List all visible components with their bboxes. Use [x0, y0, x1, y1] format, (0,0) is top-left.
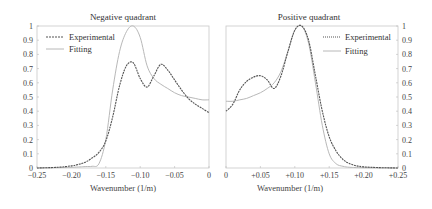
x-axis-label: Wavenumber (1/m) — [257, 183, 323, 193]
series-fitting-line — [226, 25, 398, 168]
y-tick-label: 0.5 — [402, 93, 412, 102]
panel-title: Positive quadrant — [278, 12, 341, 22]
x-tick-label: −0.15 — [97, 171, 116, 180]
legend: Experimental Fitting — [323, 32, 391, 56]
y-tick-label: 0.2 — [23, 136, 33, 145]
x-tick-label: +0.25 — [389, 171, 408, 180]
plot-frame — [37, 26, 209, 168]
y-tick-label: 0.3 — [23, 121, 33, 130]
x-tick-label: 0 — [207, 171, 211, 180]
legend-label-fitting: Fitting — [69, 44, 92, 54]
y-tick-label: 0.1 — [402, 150, 412, 159]
x-tick-label: −0.10 — [131, 171, 150, 180]
y-tick-label: 1 — [402, 22, 406, 31]
y-tick-label: 0.4 — [402, 107, 412, 116]
x-tick-label: 0 — [224, 171, 228, 180]
y-tick-label: 0.3 — [402, 121, 412, 130]
y-tick-label: 1 — [29, 22, 33, 31]
panel-positive-quadrant: Positive quadrant 00.10.20.30.40.50.60.7… — [224, 12, 412, 193]
x-tick-label: +0.10 — [286, 171, 305, 180]
x-tick-label: −0.25 — [28, 171, 47, 180]
chart-figure: Negative quadrant 00.10.20.30.40.50.60.7… — [0, 0, 432, 209]
plot-frame — [226, 26, 398, 168]
y-tick-label: 0.4 — [23, 107, 33, 116]
legend-label-experimental: Experimental — [69, 32, 115, 42]
y-tick-label: 0.5 — [23, 93, 33, 102]
y-tick-label: 0.2 — [402, 136, 412, 145]
legend: Experimental Fitting — [46, 32, 115, 54]
y-tick-label: 0.9 — [23, 36, 33, 45]
panel-negative-quadrant: Negative quadrant 00.10.20.30.40.50.60.7… — [23, 12, 211, 193]
x-tick-label: +0.20 — [354, 171, 373, 180]
x-tick-label: +0.15 — [320, 171, 339, 180]
y-tick-label: 0.8 — [402, 50, 412, 59]
y-tick-label: 0.8 — [23, 50, 33, 59]
y-tick-label: 0.9 — [402, 36, 412, 45]
x-tick-label: −0.05 — [165, 171, 184, 180]
series-group — [226, 25, 398, 168]
x-axis-label: Wavenumber (1/m) — [90, 183, 156, 193]
x-tick-label: −0.20 — [62, 171, 81, 180]
series-group — [37, 26, 209, 168]
panel-title: Negative quadrant — [90, 12, 157, 22]
legend-label-fitting: Fitting — [345, 46, 368, 56]
legend-label-experimental: Experimental — [345, 32, 391, 42]
y-tick-label: 0.7 — [23, 65, 33, 74]
y-tick-label: 0.1 — [23, 150, 33, 159]
chart-canvas: Negative quadrant 00.10.20.30.40.50.60.7… — [0, 0, 432, 209]
y-tick-label: 0.6 — [402, 79, 412, 88]
x-tick-label: +0.05 — [251, 171, 270, 180]
y-tick-label: 0.6 — [23, 79, 33, 88]
series-experimental-line — [37, 62, 209, 168]
y-tick-label: 0.7 — [402, 65, 412, 74]
series-fitting-line — [37, 26, 209, 168]
